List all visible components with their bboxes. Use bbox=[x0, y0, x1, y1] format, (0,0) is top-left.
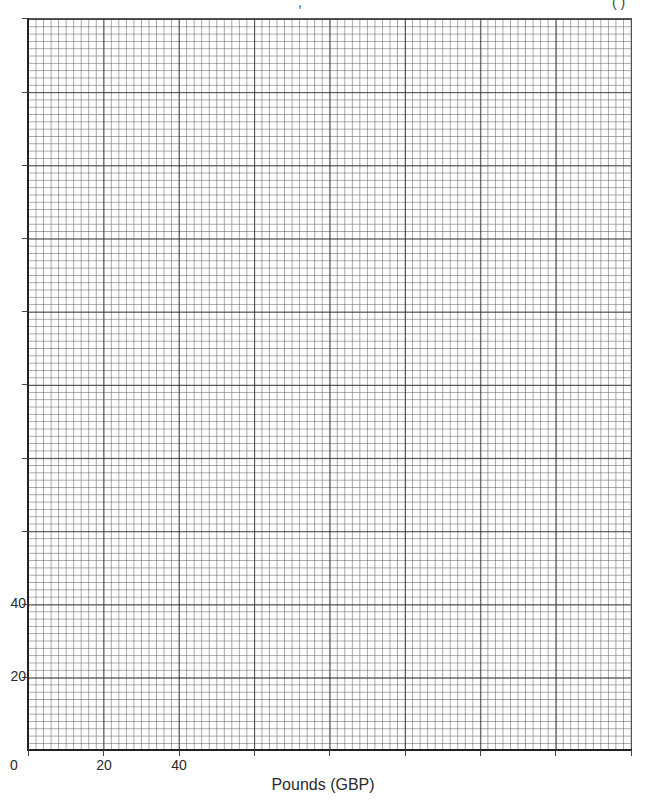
y-tick bbox=[22, 311, 28, 312]
x-tick bbox=[254, 750, 255, 756]
graph-paper-grid bbox=[28, 18, 632, 751]
clipped-header-text-right: ( ) bbox=[612, 0, 625, 10]
y-tick-label-20: 20 bbox=[10, 668, 26, 684]
x-tick bbox=[28, 750, 29, 756]
clipped-header-text-left: , bbox=[298, 0, 302, 10]
x-tick bbox=[631, 750, 632, 756]
x-tick-label-0: 0 bbox=[10, 757, 18, 773]
x-tick bbox=[329, 750, 330, 756]
y-tick bbox=[22, 458, 28, 459]
y-tick bbox=[22, 92, 28, 93]
x-tick-label-40: 40 bbox=[171, 757, 187, 773]
x-tick bbox=[103, 750, 104, 756]
y-tick bbox=[22, 238, 28, 239]
x-tick bbox=[480, 750, 481, 756]
x-axis-title: Pounds (GBP) bbox=[271, 776, 374, 794]
x-tick bbox=[405, 750, 406, 756]
x-tick bbox=[555, 750, 556, 756]
x-tick bbox=[179, 750, 180, 756]
y-tick bbox=[22, 384, 28, 385]
x-tick-label-20: 20 bbox=[96, 757, 112, 773]
y-tick bbox=[22, 165, 28, 166]
y-tick bbox=[22, 531, 28, 532]
y-tick-label-40: 40 bbox=[10, 595, 26, 611]
y-tick bbox=[22, 18, 28, 19]
